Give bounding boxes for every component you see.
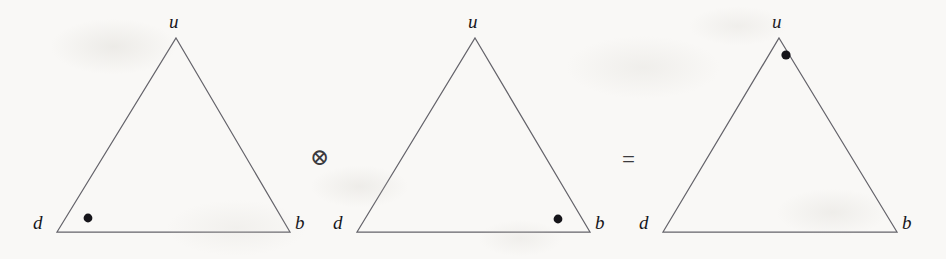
figure-canvas: u d b ⊗ u d b = u d b bbox=[0, 0, 946, 259]
triangle-middle-group bbox=[357, 38, 590, 232]
tensor-product-icon: ⊗ bbox=[310, 146, 329, 169]
triangle-left-label-u: u bbox=[169, 12, 179, 31]
triangle-right-label-d: d bbox=[639, 213, 649, 232]
triangle-right-group bbox=[663, 38, 897, 232]
triangle-middle-label-u: u bbox=[468, 12, 478, 31]
triangles-svg bbox=[0, 0, 946, 259]
triangle-right-outline bbox=[663, 38, 897, 232]
triangle-left-label-b: b bbox=[295, 213, 305, 232]
triangle-right-label-b: b bbox=[902, 213, 912, 232]
triangle-middle-weight-dot bbox=[554, 215, 563, 224]
triangle-middle-outline bbox=[357, 38, 590, 232]
triangle-left-group bbox=[57, 38, 290, 232]
triangle-middle-label-d: d bbox=[333, 213, 343, 232]
triangle-right-weight-dot bbox=[781, 50, 790, 59]
triangle-left-outline bbox=[57, 38, 290, 232]
triangle-left-label-d: d bbox=[33, 213, 43, 232]
equals-icon: = bbox=[622, 148, 635, 171]
triangle-left-weight-dot bbox=[84, 214, 93, 223]
triangle-middle-label-b: b bbox=[595, 213, 605, 232]
triangle-right-label-u: u bbox=[772, 12, 782, 31]
